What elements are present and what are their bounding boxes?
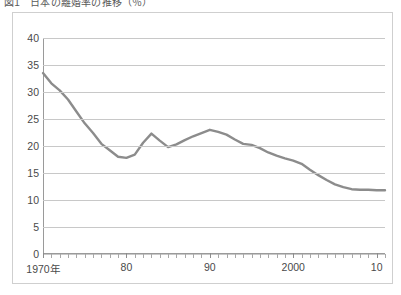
y-tick-label-5: 5: [33, 221, 39, 233]
x-tick-1984: [160, 254, 161, 258]
gridline-y-10: [43, 200, 385, 201]
x-axis-labels: 1970年8090200010: [43, 261, 385, 277]
x-tick-1979: [118, 254, 119, 258]
x-tick-1980: [126, 253, 127, 258]
x-tick-1993: [235, 254, 236, 258]
y-tick-label-15: 15: [27, 167, 39, 179]
x-tick-1978: [110, 254, 111, 258]
y-tick-label-30: 30: [27, 86, 39, 98]
x-tick-2011: [385, 254, 386, 258]
x-tick-1994: [243, 254, 244, 258]
x-tick-2009: [368, 254, 369, 258]
y-tick-label-35: 35: [27, 59, 39, 71]
gridline-y-30: [43, 92, 385, 93]
x-tick-2000: [293, 253, 294, 258]
x-tick-1985: [168, 254, 169, 258]
x-tick-2003: [318, 254, 319, 258]
x-tick-label-1970: 1970年: [26, 261, 59, 276]
x-tick-1991: [218, 254, 219, 258]
x-tick-2001: [302, 254, 303, 258]
page-title: 図1 日本の離婚率の推移（％）: [4, 0, 153, 7]
x-tick-1974: [76, 254, 77, 258]
x-tick-1982: [143, 254, 144, 258]
gridline-y-20: [43, 146, 385, 147]
y-tick-label-10: 10: [27, 194, 39, 206]
gridline-y-15: [43, 173, 385, 174]
x-tick-2010: [377, 253, 378, 258]
plot-area: [43, 38, 385, 254]
y-tick-label-20: 20: [27, 140, 39, 152]
x-tick-label-1990: 90: [204, 261, 216, 273]
x-tick-1992: [227, 254, 228, 258]
x-tick-label-2010: 10: [371, 261, 383, 273]
x-tick-1987: [185, 254, 186, 258]
x-tick-1981: [135, 254, 136, 258]
x-tick-2006: [343, 254, 344, 258]
x-tick-2005: [335, 254, 336, 258]
x-tick-2004: [327, 254, 328, 258]
gridline-y-25: [43, 119, 385, 120]
gridline-y-5: [43, 227, 385, 228]
x-tick-1983: [151, 254, 152, 258]
x-tick-2007: [352, 254, 353, 258]
x-tick-1986: [176, 254, 177, 258]
gridline-y-0: [43, 254, 385, 255]
y-tick-label-40: 40: [27, 32, 39, 44]
x-tick-1999: [285, 254, 286, 258]
x-tick-1988: [193, 254, 194, 258]
x-tick-2002: [310, 254, 311, 258]
gridline-y-35: [43, 65, 385, 66]
x-tick-1975: [85, 254, 86, 258]
x-tick-1998: [277, 254, 278, 258]
x-tick-1997: [268, 254, 269, 258]
x-tick-label-2000: 2000: [282, 261, 305, 273]
x-tick-1977: [101, 254, 102, 258]
x-tick-2008: [360, 254, 361, 258]
x-tick-1972: [60, 254, 61, 258]
gridline-y-40: [43, 38, 385, 39]
chart-title-strip: 図1 日本の離婚率の推移（％）: [0, 0, 401, 7]
x-tick-1970: [43, 253, 44, 258]
x-tick-1973: [68, 254, 69, 258]
y-tick-label-25: 25: [27, 113, 39, 125]
x-tick-1990: [210, 253, 211, 258]
y-tick-label-0: 0: [33, 248, 39, 260]
x-tick-1976: [93, 254, 94, 258]
x-tick-1971: [51, 254, 52, 258]
x-tick-1989: [201, 254, 202, 258]
x-tick-label-1980: 80: [121, 261, 133, 273]
x-tick-1996: [260, 254, 261, 258]
y-axis-labels: 4035302520151050: [18, 38, 39, 254]
x-tick-1995: [252, 254, 253, 258]
